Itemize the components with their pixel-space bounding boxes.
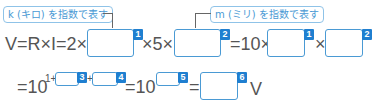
equals-10: =10	[17, 78, 48, 96]
answer-blank-4[interactable]	[92, 72, 118, 86]
blank-number-badge: 3	[77, 72, 87, 83]
blank-number-badge: 6	[237, 72, 247, 83]
answer-blank-1[interactable]	[87, 29, 134, 57]
answer-blank-2b[interactable]	[325, 29, 363, 57]
blank-number-badge: 1	[304, 29, 314, 40]
unit-volt: V	[250, 80, 262, 98]
blank-number-badge: 2	[362, 29, 372, 40]
equals: =	[189, 78, 200, 96]
kilo-annotation: k (キロ) を指数で表す	[3, 6, 113, 23]
kilo-connector	[103, 13, 113, 28]
blank-number-badge: 2	[220, 29, 230, 40]
milli-annotation: m (ミリ) を指数で表す	[210, 6, 324, 23]
equals-10-times: =10×	[230, 35, 271, 53]
times-5: ×5×	[142, 35, 173, 53]
times: ×	[315, 35, 326, 53]
answer-blank-6[interactable]	[200, 72, 238, 100]
equation-lhs: V=R×I=2×	[5, 35, 87, 53]
milli-connector	[195, 13, 211, 28]
answer-blank-5[interactable]	[156, 72, 180, 86]
answer-blank-3[interactable]	[55, 72, 79, 86]
answer-blank-1b[interactable]	[267, 29, 305, 57]
blank-number-badge: 5	[178, 72, 188, 83]
equals-10b: =10	[125, 78, 156, 96]
answer-blank-2[interactable]	[174, 29, 221, 57]
